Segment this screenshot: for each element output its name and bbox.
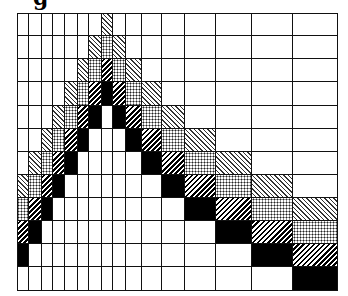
- grid-cell-white: [17, 36, 29, 59]
- grid-cell-dense-diagonal-hatch: [17, 221, 29, 244]
- grid-cell-white: [113, 267, 126, 291]
- grid-cell-white: [29, 82, 42, 106]
- grid-cell-white: [162, 221, 185, 244]
- grid-cell-white: [78, 175, 89, 198]
- grid-cell-white: [102, 267, 113, 291]
- grid-cell-white: [42, 82, 53, 106]
- grid-cell-white: [89, 244, 102, 267]
- grid-cell-white: [89, 221, 102, 244]
- grid-cell-white: [293, 36, 338, 59]
- grid-cell-white: [42, 244, 53, 267]
- grid-cell-white: [126, 36, 142, 59]
- grid-cell-black: [185, 198, 216, 221]
- grid-cell-light-diagonal-hatch: [216, 152, 252, 175]
- grid-cell-dotted: [42, 152, 53, 175]
- grid-cell-dotted: [142, 106, 162, 129]
- grid-cell-white: [162, 82, 185, 106]
- grid-cell-white: [252, 129, 293, 152]
- grid-cell-dense-diagonal-hatch: [126, 106, 142, 129]
- grid-cell-dense-diagonal-hatch: [65, 129, 78, 152]
- grid-cell-black: [17, 244, 29, 267]
- grid-cell-white: [78, 36, 89, 59]
- grid-cell-white: [142, 198, 162, 221]
- grid-cell-dotted: [89, 59, 102, 82]
- grid-cell-black: [29, 221, 42, 244]
- grid-cell-white: [102, 129, 113, 152]
- grid-cell-white: [89, 129, 102, 152]
- grid-cell-white: [142, 59, 162, 82]
- grid-cell-dense-diagonal-hatch: [142, 129, 162, 152]
- grid-cell-dense-diagonal-hatch: [78, 106, 89, 129]
- grid-cell-white: [65, 36, 78, 59]
- grid-cell-white: [53, 221, 65, 244]
- grid-cell-white: [113, 221, 126, 244]
- grid-cell-white: [216, 267, 252, 291]
- grid-cell-white: [65, 267, 78, 291]
- grid-cell-white: [252, 59, 293, 82]
- grid-cell-white: [142, 267, 162, 291]
- grid-cell-dense-diagonal-hatch: [216, 198, 252, 221]
- grid-cell-white: [252, 267, 293, 291]
- grid-cell-dotted: [29, 175, 42, 198]
- grid-cell-white: [89, 267, 102, 291]
- grid-cell-dotted: [113, 59, 126, 82]
- grid-cell-white: [42, 36, 53, 59]
- grid-cell-black: [216, 221, 252, 244]
- grid-cell-dense-diagonal-hatch: [293, 244, 338, 267]
- grid-cell-light-diagonal-hatch: [126, 59, 142, 82]
- grid-cell-white: [65, 244, 78, 267]
- grid-cell-black: [126, 129, 142, 152]
- grid-cell-white: [142, 221, 162, 244]
- grid-cell-dense-diagonal-hatch: [102, 59, 113, 82]
- grid-cell-white: [185, 106, 216, 129]
- grid-cell-white: [89, 198, 102, 221]
- grid-cell-white: [102, 221, 113, 244]
- grid-cell-light-diagonal-hatch: [78, 59, 89, 82]
- grid-cell-white: [29, 59, 42, 82]
- grid-cell-white: [185, 59, 216, 82]
- grid-cell-white: [216, 82, 252, 106]
- grid-cell-dotted: [162, 129, 185, 152]
- grid-cell-white: [293, 82, 338, 106]
- grid-cell-light-diagonal-hatch: [53, 106, 65, 129]
- grid-cell-white: [29, 13, 42, 36]
- grid-cell-white: [29, 244, 42, 267]
- grid-cell-light-diagonal-hatch: [42, 129, 53, 152]
- grid-cell-white: [293, 13, 338, 36]
- grid-cell-light-diagonal-hatch: [185, 129, 216, 152]
- grid-cell-white: [102, 106, 113, 129]
- grid-cell-black: [102, 82, 113, 106]
- grid-cell-light-diagonal-hatch: [29, 152, 42, 175]
- grid-cell-white: [293, 175, 338, 198]
- grid-cell-white: [126, 244, 142, 267]
- grid-cell-dense-diagonal-hatch: [185, 175, 216, 198]
- grid-cell-white: [252, 106, 293, 129]
- grid-cell-white: [185, 13, 216, 36]
- grid-cell-dotted: [126, 82, 142, 106]
- grid-cell-white: [78, 152, 89, 175]
- grid-cell-white: [162, 198, 185, 221]
- grid-cell-white: [126, 198, 142, 221]
- grid-cell-white: [42, 59, 53, 82]
- grid-cell-white: [142, 36, 162, 59]
- grid-cell-dotted: [216, 175, 252, 198]
- grid-cell-white: [293, 129, 338, 152]
- grid-cell-light-diagonal-hatch: [142, 82, 162, 106]
- grid-cell-white: [42, 267, 53, 291]
- grid-cell-dotted: [102, 36, 113, 59]
- grid-cell-white: [293, 152, 338, 175]
- grid-cell-white: [216, 36, 252, 59]
- grid-cell-dotted: [185, 152, 216, 175]
- grid-cell-light-diagonal-hatch: [113, 36, 126, 59]
- grid-cell-white: [78, 267, 89, 291]
- grid-cell-black: [252, 244, 293, 267]
- grid-cell-white: [185, 36, 216, 59]
- grid-cell-white: [29, 129, 42, 152]
- grid-cell-white: [89, 13, 102, 36]
- grid-cell-white: [42, 106, 53, 129]
- grid-cell-black: [78, 129, 89, 152]
- grid-cell-light-diagonal-hatch: [89, 36, 102, 59]
- grid-cell-white: [113, 152, 126, 175]
- grid-cell-light-diagonal-hatch: [293, 198, 338, 221]
- grid-cell-dense-diagonal-hatch: [53, 152, 65, 175]
